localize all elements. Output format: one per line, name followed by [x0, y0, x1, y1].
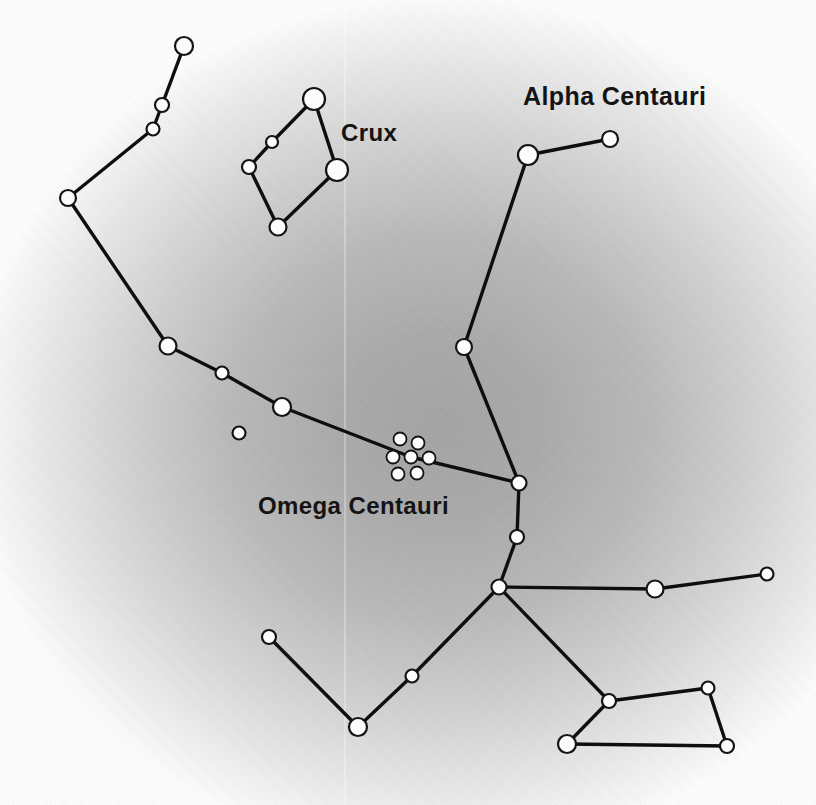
edge-beta-cen-mid-1 [464, 347, 519, 483]
star-crux-west-2 [242, 160, 256, 174]
star-east-1 [647, 581, 664, 598]
cluster-dot-5 [423, 452, 436, 465]
edge-tail-7-cluster-dot-4 [282, 407, 411, 457]
edge-east-1-east-2 [655, 574, 767, 589]
edge-quad-2-quad-3 [708, 688, 727, 746]
edge-alpha-cen-b-alpha-cen-a [528, 139, 610, 155]
edge-south-2-south-3 [269, 637, 358, 727]
edge-tail-4-tail-5 [68, 198, 168, 346]
cluster-dot-7 [411, 467, 424, 480]
star-quad-2 [702, 682, 715, 695]
edge-alpha-cen-a-beta-cen [464, 155, 528, 347]
star-quad-3 [720, 739, 734, 753]
edge-quad-3-quad-4 [567, 744, 727, 746]
cluster-dot-4 [405, 451, 418, 464]
label-omega-centauri: Omega Centauri [258, 494, 449, 518]
edge-hub-east-1 [499, 587, 655, 589]
edge-hub-south-1 [412, 587, 499, 676]
star-lone-star [233, 427, 246, 440]
star-tail-5 [160, 338, 177, 355]
star-mid-2 [510, 530, 524, 544]
edge-hub-quad-1 [499, 587, 609, 701]
edge-tail-6-tail-7 [222, 373, 282, 407]
star-crux-east [326, 159, 348, 181]
star-alpha-cen-b [602, 131, 618, 147]
star-quad-1 [602, 694, 616, 708]
star-tail-6 [216, 367, 229, 380]
label-alpha-centauri: Alpha Centauri [523, 84, 706, 109]
star-tail-2 [155, 98, 169, 112]
star-tail-7 [273, 398, 291, 416]
star-east-2 [761, 568, 774, 581]
cluster-dot-1 [394, 433, 407, 446]
star-chart-page: Crux Alpha Centauri Omega Centauri [0, 0, 816, 805]
label-crux: Crux [341, 121, 397, 145]
cluster-dot-6 [392, 468, 405, 481]
star-beta-cen [456, 339, 472, 355]
star-quad-4 [558, 735, 576, 753]
star-south-1 [406, 670, 419, 683]
star-tail-4 [60, 190, 76, 206]
star-crux-top [303, 88, 325, 110]
star-tail-1 [175, 37, 193, 55]
edge-tail-3-tail-4 [68, 129, 153, 198]
edge-crux-west-2-crux-bottom [249, 167, 278, 227]
edge-crux-bottom-crux-east [278, 170, 337, 227]
edge-quad-1-quad-2 [609, 688, 708, 701]
cluster-dot-3 [387, 451, 400, 464]
edge-south-1-south-2 [358, 676, 412, 727]
star-alpha-cen-a [518, 145, 538, 165]
star-south-2 [349, 718, 367, 736]
star-chart [0, 0, 816, 805]
cluster-dot-2 [412, 437, 425, 450]
star-crux-bottom [270, 219, 287, 236]
star-mid-1 [512, 476, 527, 491]
star-tail-3 [147, 123, 160, 136]
star-hub [492, 580, 507, 595]
star-crux-west-1 [266, 136, 278, 148]
star-south-3 [262, 630, 276, 644]
